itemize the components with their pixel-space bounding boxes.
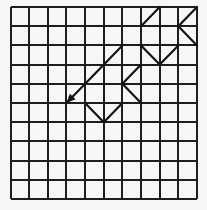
grid-diagram (0, 0, 207, 210)
